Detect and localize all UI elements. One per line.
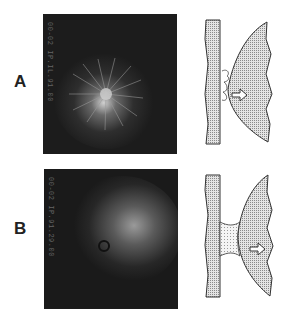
panel-label-a: A bbox=[14, 72, 26, 92]
cell-body bbox=[228, 22, 272, 142]
substrate-wall bbox=[205, 175, 220, 297]
diagram-a bbox=[200, 14, 280, 149]
radial-streaks-image bbox=[43, 14, 177, 154]
micrograph-a-side-text: 00-02 IP.IL.91.00 bbox=[44, 22, 54, 147]
micrograph-b: 00-02 IP.91.29.00 bbox=[44, 169, 178, 309]
micrograph-a: 00-02 IP.IL.91.00 bbox=[43, 14, 177, 154]
ruffle-contact bbox=[222, 70, 229, 100]
panel-label-b: B bbox=[14, 219, 26, 239]
diagram-b bbox=[200, 170, 280, 305]
substrate-wall bbox=[205, 20, 220, 144]
micrograph-b-side-text: 00-02 IP.91.29.00 bbox=[45, 177, 55, 302]
tether-neck bbox=[220, 222, 240, 256]
diffuse-glow-image bbox=[44, 169, 178, 308]
cell-body bbox=[238, 175, 273, 296]
